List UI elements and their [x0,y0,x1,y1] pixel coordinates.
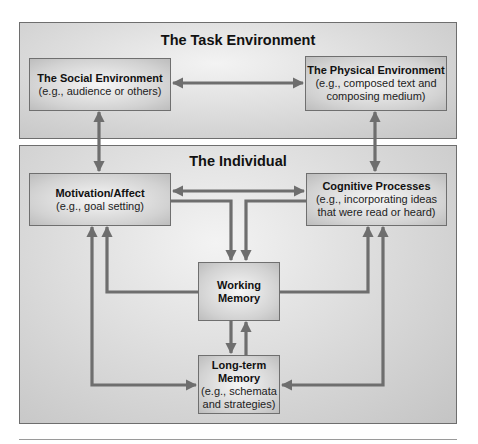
social-environment-title: The Social Environment [37,72,162,85]
motivation-affect-subtitle: (e.g., goal setting) [56,200,144,213]
long-term-memory-subtitle-2: and strategies) [203,398,276,411]
task-environment-title: The Task Environment [20,32,456,48]
working-memory-box: Working Memory [198,262,280,321]
cognitive-processes-subtitle-2: that were read or heard) [317,206,435,219]
physical-environment-title: The Physical Environment [307,64,445,77]
long-term-memory-title-2: Memory [218,372,260,385]
cognitive-processes-subtitle-1: (e.g., incorporating ideas [316,193,437,206]
cognitive-processes-box: Cognitive Processes (e.g., incorporating… [306,173,447,226]
working-memory-title-2: Memory [218,292,260,305]
social-environment-subtitle: (e.g., audience or others) [39,85,162,98]
social-environment-box: The Social Environment (e.g., audience o… [29,58,171,111]
bottom-divider [19,439,457,440]
physical-environment-subtitle-2: composing medium) [326,90,425,103]
long-term-memory-box: Long-term Memory (e.g., schemata and str… [198,355,280,414]
motivation-affect-title: Motivation/Affect [55,187,144,200]
long-term-memory-subtitle-1: (e.g., schemata [201,385,277,398]
physical-environment-subtitle-1: (e.g., composed text and [315,77,436,90]
working-memory-title-1: Working [217,279,261,292]
long-term-memory-title-1: Long-term [212,359,266,372]
cognitive-processes-title: Cognitive Processes [322,180,430,193]
physical-environment-box: The Physical Environment (e.g., composed… [305,56,447,111]
individual-title: The Individual [20,153,456,169]
motivation-affect-box: Motivation/Affect (e.g., goal setting) [29,173,171,226]
